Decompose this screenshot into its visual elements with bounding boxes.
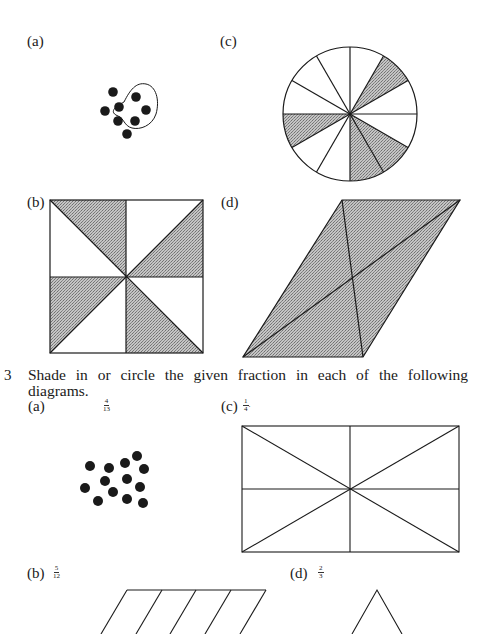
figure-2a-dots: [100, 84, 157, 139]
part-label-3a: (a): [28, 399, 45, 414]
figure-2b-square: [50, 200, 203, 353]
question-number: 3: [4, 367, 12, 384]
part-label-2a: (a): [27, 34, 44, 49]
worksheet-figures: [0, 0, 480, 634]
figure-2d-parallelogram: [243, 200, 460, 357]
part-label-2d: (d): [221, 195, 239, 210]
figure-2c-circle: [283, 47, 417, 181]
figure-3b-parallelogram: [101, 590, 266, 634]
part-label-2b: (b): [27, 195, 45, 210]
figure-3c-rectangle: [242, 426, 459, 552]
part-label-3b: (b): [27, 566, 45, 581]
fraction-3d: 23: [318, 565, 324, 583]
instruction-line-2: diagrams.: [28, 383, 468, 399]
figure-3d-triangle: [352, 590, 402, 634]
instruction-line-1: Shade in or circle the given fraction in…: [28, 367, 468, 383]
part-label-3c: (c): [221, 399, 238, 414]
fraction-3a: 413: [103, 398, 110, 416]
fraction-3b: 512: [53, 565, 60, 583]
part-label-2c: (c): [220, 34, 237, 49]
part-label-3d: (d): [290, 566, 308, 581]
figure-3a-dots: [80, 451, 149, 508]
question-instruction: Shade in or circle the given fraction in…: [28, 367, 468, 399]
fraction-3c: 14.: [243, 398, 251, 416]
